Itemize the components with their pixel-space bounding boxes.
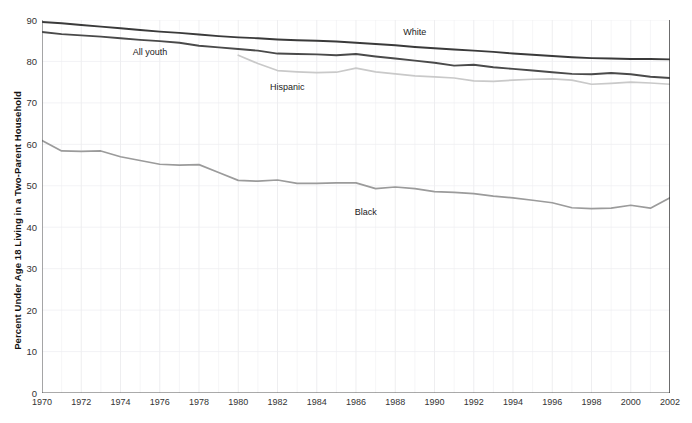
y-tick-label: 70 — [26, 97, 37, 108]
x-tick-label: 1976 — [150, 397, 170, 407]
x-tick-label: 1990 — [424, 397, 444, 407]
x-tick-label: 1994 — [503, 397, 523, 407]
x-tick-label: 1982 — [267, 397, 287, 407]
y-tick-label: 0 — [32, 388, 37, 399]
y-tick-label: 60 — [26, 139, 37, 150]
series-label-white: White — [403, 27, 426, 37]
x-tick-label: 1980 — [228, 397, 248, 407]
plot-area: WhiteAll youthHispanicBlack — [42, 20, 670, 393]
y-tick-label: 10 — [26, 346, 37, 357]
x-tick-label: 1970 — [32, 397, 52, 407]
chart-container: Percent Under Age 18 Living in a Two-Par… — [0, 0, 692, 423]
x-tick-label: 1986 — [346, 397, 366, 407]
x-tick-label: 1972 — [71, 397, 91, 407]
x-tick-label: 1978 — [189, 397, 209, 407]
line-chart-svg: WhiteAll youthHispanicBlack — [42, 20, 670, 393]
x-tick-label: 1996 — [542, 397, 562, 407]
series-label-black: Black — [355, 207, 378, 217]
x-tick-label: 2002 — [660, 397, 680, 407]
x-tick-label: 1984 — [307, 397, 327, 407]
series-label-hispanic: Hispanic — [270, 82, 305, 92]
y-axis-title: Percent Under Age 18 Living in a Two-Par… — [9, 9, 27, 423]
x-tick-label-group: 1970197219741976197819801982198419861988… — [32, 397, 680, 407]
x-tick-label: 2000 — [621, 397, 641, 407]
x-tick-label: 1992 — [464, 397, 484, 407]
y-tick-label: 30 — [26, 263, 37, 274]
x-tick-label: 1988 — [385, 397, 405, 407]
series-label-all-youth: All youth — [133, 47, 168, 57]
y-tick-label: 40 — [26, 222, 37, 233]
y-tick-label-group: 0102030405060708090 — [26, 15, 37, 399]
y-tick-label: 90 — [26, 15, 37, 26]
y-tick-label: 50 — [26, 180, 37, 191]
x-tick-label: 1974 — [110, 397, 130, 407]
x-tick-label: 1998 — [581, 397, 601, 407]
y-tick-label: 80 — [26, 56, 37, 67]
y-tick-label: 20 — [26, 305, 37, 316]
